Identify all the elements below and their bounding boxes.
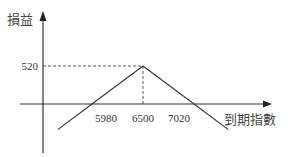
payoff-chart: 598065007020520 損益 到期指數 [0, 0, 288, 157]
payoff-line-segment [92, 66, 143, 104]
y-axis-arrow [40, 11, 47, 21]
x-axis-label: 到期指數 [224, 112, 276, 127]
x-tick-label: 6500 [132, 112, 155, 124]
x-axis-arrow [263, 101, 272, 108]
axes [20, 11, 272, 153]
x-tick-label: 7020 [168, 112, 191, 124]
y-axis-label: 損益 [7, 12, 33, 27]
payoff-line-segment [58, 104, 92, 130]
payoff-line-segment [143, 66, 194, 104]
y-tick-label: 520 [22, 60, 39, 72]
reference-lines [43, 66, 143, 104]
x-tick-label: 5980 [95, 112, 118, 124]
tick-labels: 598065007020520 [22, 60, 191, 124]
